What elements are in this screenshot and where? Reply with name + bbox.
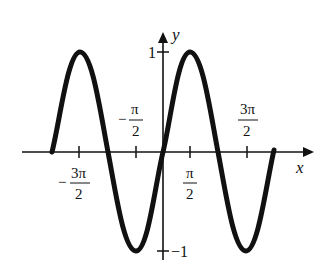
x-axis-label: x bbox=[295, 158, 304, 177]
y-tick-label-neg-one: −1 bbox=[171, 243, 188, 260]
x-tick-label-num: 3π bbox=[240, 101, 256, 117]
x-tick-label-den: 2 bbox=[75, 186, 83, 202]
x-tick-label-minus: − bbox=[118, 111, 126, 127]
y-tick-label-one: 1 bbox=[148, 44, 156, 61]
x-tick-label-num: π bbox=[186, 165, 194, 181]
x-tick-label-den: 2 bbox=[132, 123, 140, 139]
x-axis-arrow-icon bbox=[303, 147, 314, 157]
x-tick-label-den: 2 bbox=[186, 186, 194, 202]
x-tick-label-den: 2 bbox=[243, 123, 251, 139]
x-tick-label-num: 3π bbox=[71, 165, 87, 181]
x-tick-label-minus: − bbox=[58, 174, 66, 190]
sine-chart: y x 1 −1 − 3π 2 − π 2 π 2 3π 2 bbox=[0, 0, 326, 267]
y-axis-arrow-icon bbox=[158, 32, 168, 43]
y-axis-label: y bbox=[170, 25, 180, 44]
x-tick-label-num: π bbox=[131, 101, 139, 117]
